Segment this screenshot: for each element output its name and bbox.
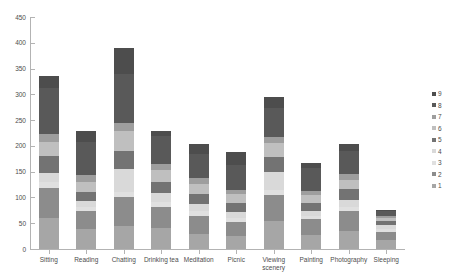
bar-segment — [39, 156, 59, 172]
legend-item[interactable]: 1 — [432, 180, 442, 192]
chart-legend: 987654321 — [432, 88, 442, 192]
bar-segment — [339, 151, 359, 174]
bar-segment — [301, 219, 321, 234]
y-axis-tick-label: 50 — [2, 220, 26, 227]
bar-segment — [339, 144, 359, 151]
legend-item[interactable]: 4 — [432, 146, 442, 158]
bar-segment — [151, 182, 171, 193]
legend-item[interactable]: 5 — [432, 134, 442, 146]
legend-item-label: 7 — [438, 113, 442, 120]
bar-segment — [39, 134, 59, 142]
bar-segment — [264, 97, 284, 108]
x-axis-category-label: Viewing scenery — [255, 256, 293, 271]
bar-segment — [339, 211, 359, 231]
bar-segment — [76, 229, 96, 249]
bar-segment — [301, 235, 321, 249]
bar-segment — [264, 172, 284, 190]
bar-segment — [151, 170, 171, 181]
y-axis-label-slot: 450 — [0, 14, 26, 21]
y-axis-label-slot: 150 — [0, 168, 26, 175]
bar-segment — [76, 211, 96, 229]
legend-item-label: 9 — [438, 90, 442, 97]
y-axis-tick-label: 300 — [2, 91, 26, 98]
bar-stack — [76, 131, 96, 249]
bar-segment — [189, 144, 209, 153]
y-axis-label-slot: 300 — [0, 91, 26, 98]
x-axis-category-label: Sleeping — [368, 256, 406, 264]
bar-segment — [114, 123, 134, 131]
y-axis-tick-label: 350 — [2, 65, 26, 72]
x-axis-tick — [199, 250, 200, 254]
x-axis-tick — [386, 250, 387, 254]
bar-segment — [264, 195, 284, 221]
bar-stack — [301, 163, 321, 249]
legend-item[interactable]: 2 — [432, 169, 442, 181]
x-axis-tick — [274, 250, 275, 254]
legend-item-label: 4 — [438, 148, 442, 155]
x-axis-category-label: Sitting — [30, 256, 68, 264]
y-axis-tick-label: 400 — [2, 39, 26, 46]
legend-item-label: 3 — [438, 159, 442, 166]
x-axis-tick — [86, 250, 87, 254]
y-axis-tick-label: 0 — [2, 246, 26, 253]
legend-swatch-icon — [432, 115, 436, 119]
legend-swatch-icon — [432, 138, 436, 142]
bar-segment — [151, 193, 171, 202]
bars-layer — [30, 17, 405, 249]
x-axis-tick — [349, 250, 350, 254]
y-axis-label-slot: 100 — [0, 194, 26, 201]
bar-segment — [189, 234, 209, 249]
legend-item[interactable]: 8 — [432, 100, 442, 112]
bar-stack — [376, 210, 396, 249]
bar-segment — [76, 142, 96, 176]
bar-segment — [264, 143, 284, 157]
x-axis-category-label: Meditation — [180, 256, 218, 264]
bar-segment — [339, 189, 359, 199]
bar-segment — [114, 48, 134, 74]
bar-segment — [301, 195, 321, 202]
x-axis-category-label: Picnic — [218, 256, 256, 264]
legend-swatch-icon — [432, 184, 436, 188]
y-axis-label-slot: 400 — [0, 39, 26, 46]
y-axis-tick-label: 150 — [2, 168, 26, 175]
bar-segment — [39, 218, 59, 249]
y-axis-tick — [31, 249, 35, 250]
bar-segment — [114, 151, 134, 169]
bar-segment — [264, 221, 284, 249]
x-axis-category-label: Photography — [330, 256, 368, 264]
bar-segment — [114, 131, 134, 152]
bar-segment — [114, 74, 134, 123]
bar-segment — [264, 157, 284, 171]
y-axis-tick-label: 450 — [2, 14, 26, 21]
bar-segment — [76, 192, 96, 201]
y-axis-tick-label: 250 — [2, 117, 26, 124]
legend-item[interactable]: 7 — [432, 111, 442, 123]
legend-item-label: 2 — [438, 171, 442, 178]
legend-swatch-icon — [432, 92, 436, 96]
legend-item[interactable]: 9 — [432, 88, 442, 100]
bar-segment — [151, 136, 171, 164]
bar-segment — [39, 142, 59, 156]
y-axis-tick-label: 100 — [2, 194, 26, 201]
bar-segment — [339, 231, 359, 249]
x-axis-tick — [161, 250, 162, 254]
bar-stack — [264, 97, 284, 249]
bar-segment — [114, 197, 134, 225]
x-axis-category-label: Drinking tea — [143, 256, 181, 264]
x-axis-tick — [236, 250, 237, 254]
x-axis-tick — [124, 250, 125, 254]
y-axis-tick-label: 200 — [2, 142, 26, 149]
bar-segment — [376, 240, 396, 249]
legend-item-label: 6 — [438, 125, 442, 132]
x-axis-category-label: Chatting — [105, 256, 143, 264]
legend-swatch-icon — [432, 126, 436, 130]
bar-segment — [189, 184, 209, 194]
legend-item[interactable]: 3 — [432, 157, 442, 169]
x-axis-category-label: Painting — [293, 256, 331, 264]
y-axis-label-slot: 200 — [0, 142, 26, 149]
legend-item[interactable]: 6 — [432, 123, 442, 135]
bar-stack — [151, 131, 171, 249]
x-axis-tick — [311, 250, 312, 254]
bar-segment — [226, 203, 246, 212]
bar-segment — [264, 108, 284, 136]
